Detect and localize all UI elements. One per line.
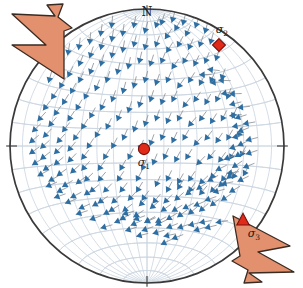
sigma1-marker (138, 143, 149, 154)
arrow-se (232, 216, 294, 283)
sigma2-label: σ2 (216, 23, 229, 38)
stereonet-figure: N σ1σ2σ3 (0, 0, 303, 288)
north-label: N (142, 4, 153, 19)
stereonet-svg: N σ1σ2σ3 (0, 0, 303, 288)
